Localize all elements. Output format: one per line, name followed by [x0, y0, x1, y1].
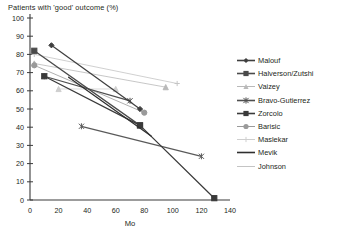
data-marker-circle [142, 110, 147, 115]
y-tick-label: 90 [16, 32, 24, 41]
series-line [81, 126, 201, 156]
legend-marker-plus-icon [236, 133, 256, 146]
legend-label: Bravo-Gutierrez [256, 94, 310, 107]
x-axis-title: Mo [125, 219, 136, 228]
legend-marker-asterisk-icon [236, 94, 256, 107]
data-marker-triangle [56, 86, 61, 91]
legend-marker-square-icon [236, 107, 256, 120]
legend-label: Maslekar [256, 133, 288, 146]
series-line [34, 64, 165, 88]
y-tick-label: 0 [20, 196, 24, 205]
series-line [51, 45, 140, 109]
legend-item-barisic[interactable]: Barisic [236, 120, 359, 133]
legend-label: Johnson [256, 160, 286, 173]
x-tick-label: 60 [112, 206, 120, 215]
y-tick-label: 70 [16, 68, 24, 77]
y-tick-label: 50 [16, 105, 24, 114]
y-tick-label: 20 [16, 159, 24, 168]
legend-marker-square-icon [236, 67, 256, 80]
x-tick-label: 140 [224, 206, 236, 215]
legend-item-zorcolo[interactable]: Zorcolo [236, 107, 359, 120]
legend-item-johnson[interactable]: Johnson [236, 160, 359, 173]
x-tick-label: 20 [55, 206, 63, 215]
y-tick-label: 60 [16, 86, 24, 95]
y-tick-label: 80 [16, 50, 24, 59]
legend-marker-diamond-icon [236, 54, 256, 67]
x-tick-label: 80 [140, 206, 148, 215]
series-line [34, 51, 140, 126]
legend-label: Barisic [256, 120, 280, 133]
x-tick-label: 120 [195, 206, 207, 215]
data-marker-triangle [163, 85, 168, 90]
x-tick-label: 100 [167, 206, 179, 215]
x-tick-label: 40 [83, 206, 91, 215]
legend-marker-none-icon [236, 160, 256, 173]
data-marker-square [32, 48, 37, 53]
series-line [44, 76, 214, 198]
legend-label: Zorcolo [256, 107, 283, 120]
y-tick-label: 100 [12, 14, 24, 23]
chart-container: Patients with 'good' outcome (%) 0102030… [0, 0, 359, 238]
legend-item-vaizey[interactable]: Vaizey [236, 80, 359, 93]
legend-item-halverson-zutshi[interactable]: Halverson/Zutshi [236, 67, 359, 80]
legend-marker-none-icon [236, 146, 256, 159]
data-marker-square [212, 196, 217, 201]
data-marker-circle [32, 63, 37, 68]
legend-label: Halverson/Zutshi [256, 67, 313, 80]
y-tick-label: 10 [16, 177, 24, 186]
chart-legend: MaloufHalverson/ZutshiVaizeyBravo-Gutier… [236, 54, 359, 173]
legend-label: Malouf [256, 54, 280, 67]
data-marker-square [42, 74, 47, 79]
legend-marker-circle-icon [236, 120, 256, 133]
x-tick-label: 0 [28, 206, 32, 215]
legend-item-mevik[interactable]: Mevik [236, 146, 359, 159]
legend-item-maslekar[interactable]: Maslekar [236, 133, 359, 146]
legend-label: Mevik [256, 146, 277, 159]
legend-marker-triangle-icon [236, 80, 256, 93]
y-tick-label: 40 [16, 123, 24, 132]
legend-label: Vaizey [256, 80, 280, 93]
legend-item-malouf[interactable]: Malouf [236, 54, 359, 67]
y-tick-label: 30 [16, 141, 24, 150]
legend-item-bravo-gutierrez[interactable]: Bravo-Gutierrez [236, 94, 359, 107]
